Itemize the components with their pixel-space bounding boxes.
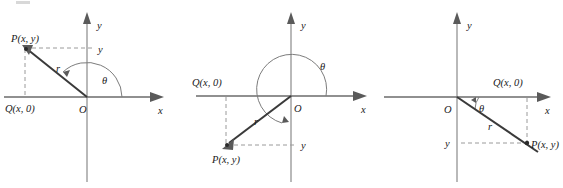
label-origin: O	[294, 103, 302, 114]
label-radius: r	[488, 121, 493, 132]
label-x-axis: x	[157, 105, 163, 116]
theta-arc-arrowhead	[282, 116, 289, 123]
panel-third-quadrant: Q(x, 0) P(x, y) O r θ y x y	[180, 0, 375, 188]
label-y-value: y	[300, 140, 306, 151]
label-point-P: P(x, y)	[10, 33, 39, 45]
panel-second-quadrant: P(x, y) Q(x, 0) O r θ y x y	[0, 0, 180, 188]
label-y-value: y	[444, 138, 450, 149]
theta-arc	[257, 54, 327, 123]
label-point-Q: Q(x, 0)	[192, 77, 222, 89]
panel-fourth-quadrant: O θ Q(x, 0) P(x, y) r y x y	[375, 0, 563, 188]
label-theta: θ	[320, 61, 325, 72]
label-origin: O	[444, 104, 452, 115]
label-y-axis: y	[466, 20, 472, 31]
label-y-axis: y	[300, 20, 306, 31]
y-axis-arrowhead	[83, 12, 91, 24]
label-theta: θ	[479, 103, 484, 114]
x-axis-arrowhead	[150, 92, 164, 102]
label-radius: r	[56, 63, 61, 74]
label-point-Q: Q(x, 0)	[5, 103, 35, 115]
x-axis-arrowhead	[537, 92, 551, 102]
diagram-3-svg: O θ Q(x, 0) P(x, y) r y x y	[375, 0, 563, 188]
point-P-marker	[525, 141, 529, 145]
point-P-marker	[225, 143, 229, 147]
label-point-Q: Q(x, 0)	[493, 77, 523, 89]
figure-root: P(x, y) Q(x, 0) O r θ y x y	[0, 0, 563, 188]
x-axis-arrowhead	[353, 91, 367, 101]
diagram-1-svg: P(x, y) Q(x, 0) O r θ y x y	[0, 0, 180, 188]
y-axis-arrowhead	[453, 12, 461, 24]
diagram-2-svg: Q(x, 0) P(x, y) O r θ y x y	[180, 0, 375, 188]
label-origin: O	[79, 104, 87, 115]
point-P-marker	[24, 47, 28, 51]
theta-arc-arrowhead	[471, 97, 476, 103]
radius-segment	[229, 96, 291, 143]
theta-arc	[63, 62, 122, 97]
label-theta: θ	[102, 75, 107, 86]
label-x-axis: x	[544, 105, 550, 116]
label-y-axis: y	[96, 20, 102, 31]
label-y-value: y	[97, 44, 103, 55]
y-axis-arrowhead	[287, 12, 295, 24]
label-point-P: P(x, y)	[211, 154, 240, 166]
label-point-P: P(x, y)	[530, 139, 559, 151]
label-x-axis: x	[360, 104, 366, 115]
